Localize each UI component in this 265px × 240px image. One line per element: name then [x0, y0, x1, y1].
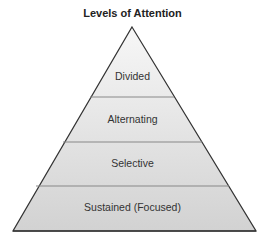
level-alternating: Alternating — [0, 113, 265, 125]
level-divided: Divided — [0, 70, 265, 82]
level-selective: Selective — [0, 157, 265, 169]
level-sustained: Sustained (Focused) — [0, 201, 265, 213]
